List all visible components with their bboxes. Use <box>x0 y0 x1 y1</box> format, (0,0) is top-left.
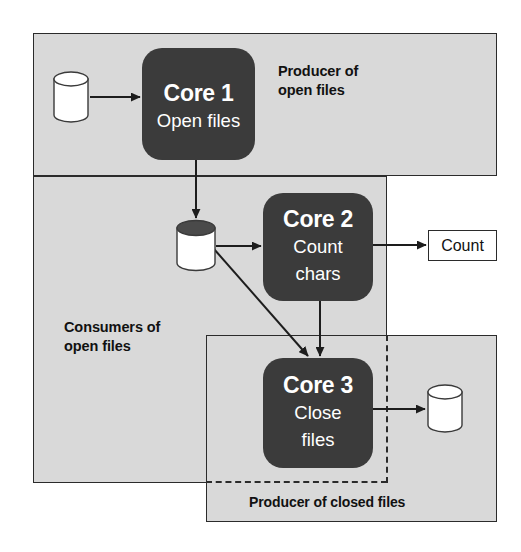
core-2-subtitle: Count chars <box>293 234 342 288</box>
consumers-panel-dashed-right-edge <box>386 335 388 483</box>
core-3-subtitle: Close files <box>294 400 341 454</box>
node-count-output[interactable]: Count <box>428 230 497 261</box>
panel-label-producer-of-closed-files: Producer of closed files <box>249 493 405 511</box>
node-core-3[interactable]: Core 3 Close files <box>263 358 373 468</box>
panel-producer-of-open-files <box>33 33 497 176</box>
node-core-2[interactable]: Core 2 Count chars <box>263 193 373 301</box>
open-files-queue-icon <box>176 219 216 272</box>
input-files-store-icon <box>53 71 89 123</box>
consumers-panel-dashed-bottom-edge <box>206 481 387 483</box>
node-core-1[interactable]: Core 1 Open files <box>142 48 255 160</box>
count-box-label: Count <box>441 237 484 255</box>
panel-label-producer-of-open-files: Producer of open files <box>278 62 358 100</box>
panel-label-consumers-of-open-files: Consumers of open files <box>64 318 160 356</box>
core-2-title: Core 2 <box>283 207 353 232</box>
core-3-title: Core 3 <box>283 373 353 398</box>
core-1-subtitle: Open files <box>157 109 240 133</box>
core-1-title: Core 1 <box>164 81 234 106</box>
diagram-canvas: Producer of open files Consumers of open… <box>0 0 521 552</box>
closed-files-store-icon <box>427 384 463 433</box>
